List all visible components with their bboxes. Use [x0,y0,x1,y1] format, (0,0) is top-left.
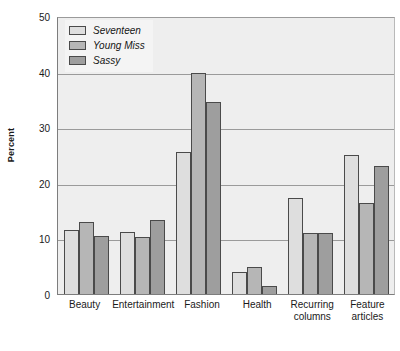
bar [318,233,333,294]
x-axis-tick-labels: BeautyEntertainmentFashionHealthRecurrin… [57,299,395,323]
x-axis-tick-label: Beauty [57,299,112,323]
y-axis-tick-labels: 01020304050 [20,17,54,295]
legend-swatch [69,56,86,65]
x-axis-tick-label: Entertainment [112,299,174,323]
legend-item-label: Seventeen [93,25,141,36]
legend-item-label: Sassy [93,55,120,66]
y-axis-tick-label: 20 [39,178,50,189]
bar [120,232,135,294]
y-axis-title: Percent [2,0,20,290]
legend-item: Sassy [69,53,145,67]
bar [374,166,389,294]
legend-item: Seventeen [69,23,145,37]
bar [150,220,165,295]
bar [79,222,94,294]
bar [206,102,221,294]
legend-item-label: Young Miss [93,40,145,51]
y-axis-title-text: Percent [6,128,16,162]
y-axis-tick-label: 10 [39,234,50,245]
bar-group-bars [170,18,226,294]
y-axis-tick-label: 0 [44,290,50,301]
bar-group-bars [226,18,282,294]
bar [232,272,247,294]
bar [191,73,206,294]
y-axis-tick-label: 40 [39,67,50,78]
plot-area: SeventeenYoung MissSassy [57,17,395,295]
y-axis-tick-label: 50 [39,12,50,23]
bar [247,267,262,294]
bar-group [226,18,282,294]
bar [94,236,109,294]
bar [303,233,318,294]
bar-group-bars [338,18,394,294]
bar-group-bars [282,18,338,294]
bar-group [282,18,338,294]
bar [359,203,374,294]
legend-item: Young Miss [69,38,145,52]
bar [288,198,303,294]
bar [176,152,191,294]
bar-group [170,18,226,294]
bar-chart-figure: Percent 01020304050 SeventeenYoung MissS… [0,0,400,351]
y-axis-tick-label: 30 [39,123,50,134]
x-axis-tick-label: Health [230,299,285,323]
bar-group [338,18,394,294]
legend-swatch [69,26,86,35]
bar [135,237,150,294]
chart-legend: SeventeenYoung MissSassy [65,20,153,72]
x-axis-tick-label: Recurringcolumns [285,299,340,323]
bar [262,286,277,294]
x-axis-tick-label: Fashion [174,299,229,323]
legend-swatch [69,41,86,50]
bar [64,230,79,294]
bar [344,155,359,294]
x-axis-tick-label: Featurearticles [340,299,395,323]
